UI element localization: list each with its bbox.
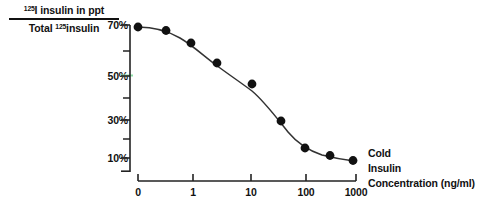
- data-point: [248, 80, 257, 89]
- plot-area: [0, 0, 481, 214]
- data-point: [213, 59, 222, 68]
- data-point: [349, 156, 358, 165]
- data-point: [187, 39, 196, 48]
- fitted-curve: [138, 27, 354, 161]
- data-point: [134, 23, 143, 32]
- data-point: [326, 151, 335, 160]
- data-point: [162, 26, 171, 35]
- data-point: [301, 144, 310, 153]
- data-point: [277, 117, 286, 126]
- chart-figure: 125I insulin in ppt Total 125insulin 70%…: [0, 0, 481, 214]
